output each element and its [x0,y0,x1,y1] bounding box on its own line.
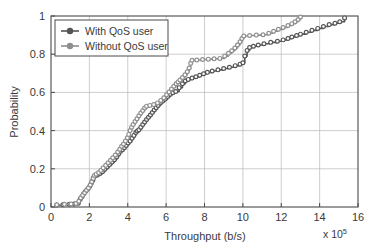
series-marker [228,65,232,69]
figure-container: 0246810121416 00.20.40.60.81 With QoS us… [0,0,377,251]
series-marker [276,39,280,43]
series-marker [190,58,194,62]
x-axis-title: Throughput (b/s) [164,230,245,242]
series-marker [186,78,190,82]
series-marker [276,27,280,31]
legend-item-label: With QoS user [85,25,154,37]
series-marker [304,30,308,34]
series-marker [222,67,226,71]
series-marker [252,44,256,48]
series-marker [202,72,206,76]
series-marker [174,90,178,94]
x-tick-label: 2 [86,211,92,223]
series-marker [55,203,59,207]
legend-marker-icon [67,28,72,33]
series-marker [281,38,285,42]
series-marker [269,40,273,44]
legend-marker-icon [67,43,72,48]
y-tick-label: 0.8 [30,48,45,60]
series-marker [205,70,209,74]
series-marker [177,86,181,90]
series-marker [223,54,227,58]
series-marker [267,31,271,35]
series-marker [343,16,347,20]
series-marker [290,35,294,39]
series-marker [272,29,276,33]
series-marker [190,76,194,80]
x-tick-label: 0 [48,211,54,223]
series-marker [152,103,156,107]
x-tick-label: 16 [352,211,364,223]
x-tick-label: 6 [163,211,169,223]
series-marker [254,33,258,37]
y-tick-label: 0.2 [30,163,45,175]
series-marker [316,27,320,31]
y-tick-label: 0.6 [30,86,45,98]
series-marker [248,46,252,50]
y-tick-label: 0.4 [30,125,45,137]
series-marker [241,61,245,65]
y-axis-title: Probability [8,86,20,138]
series-marker [286,37,290,41]
series-marker [194,75,198,79]
series-marker [218,57,222,61]
series-marker [286,24,290,28]
series-marker [281,26,285,30]
series-marker [195,58,199,62]
cdf-chart: 0246810121416 00.20.40.60.81 With QoS us… [0,0,377,251]
x-tick-label: 8 [201,211,207,223]
legend-box[interactable]: With QoS userWithout QoS user [55,20,168,56]
series-marker [243,54,247,58]
series-marker [299,15,303,19]
series-marker [256,43,260,47]
series-marker [210,69,214,73]
series-marker [333,21,337,25]
series-marker [299,32,303,36]
series-marker [206,57,210,61]
series-marker [295,34,299,38]
legend-item-label: Without QoS user [85,40,168,52]
series-marker [322,25,326,29]
series-marker [148,103,152,107]
series-marker [69,202,73,206]
series-marker [63,202,67,206]
series-marker [233,64,237,68]
x-tick-label: 10 [237,211,249,223]
series-marker [261,33,265,37]
series-marker [185,70,189,74]
series-marker [248,34,252,38]
y-tick-label: 1 [39,10,45,22]
series-marker [327,23,331,27]
series-marker [310,28,314,32]
series-marker [212,57,216,61]
series-marker [216,68,220,72]
series-marker [242,34,246,38]
y-tick-label: 0 [39,201,45,213]
series-marker [187,66,191,70]
series-marker [338,20,342,24]
series-marker [262,42,266,46]
series-marker [201,58,205,62]
x-tick-label: 4 [125,211,131,223]
series-marker [198,73,202,77]
x-tick-label: 12 [275,211,287,223]
x-tick-label: 14 [314,211,326,223]
